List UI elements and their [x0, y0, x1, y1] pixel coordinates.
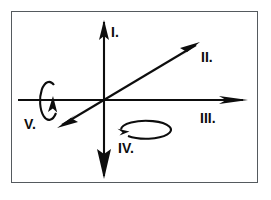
- bottom-rotation-ellipse: [118, 121, 171, 139]
- bottom-rotation-arc: [121, 121, 171, 139]
- axis-label-one: I.: [111, 25, 119, 39]
- diagonal-axis-line: [62, 45, 196, 125]
- diagonal-axis-arrowhead-lower-left: [57, 114, 78, 128]
- axis-label-two: II.: [201, 50, 213, 64]
- axis-label-three: III.: [200, 111, 216, 125]
- figure-root: I. II. III. IV. V.: [0, 0, 271, 200]
- axis-label-five: V.: [24, 117, 36, 131]
- left-rotation-arrowhead: [48, 96, 57, 112]
- axes-diagram-svg: [0, 0, 271, 200]
- bottom-rotation-arrowhead: [118, 129, 130, 136]
- diagonal-axis: [57, 42, 200, 128]
- axis-label-four: IV.: [118, 141, 134, 155]
